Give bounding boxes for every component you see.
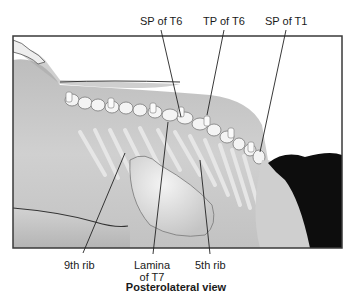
label-sp-of-t1: SP of T1	[265, 15, 307, 27]
label-9th-rib: 9th rib	[64, 259, 95, 271]
label-lamina-of-t7: Lamina of T7	[132, 259, 172, 283]
anatomy-figure: SP of T6 TP of T6 SP of T1 9th rib Lamin…	[0, 0, 352, 299]
figure-caption: Posterolateral view	[0, 281, 352, 293]
body-illustration	[13, 36, 342, 248]
label-5th-rib: 5th rib	[195, 259, 226, 271]
label-tp-of-t6: TP of T6	[203, 15, 245, 27]
illustration	[0, 0, 352, 299]
label-sp-of-t6: SP of T6	[140, 15, 182, 27]
label-lamina-line1: Lamina	[132, 259, 172, 271]
